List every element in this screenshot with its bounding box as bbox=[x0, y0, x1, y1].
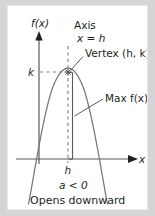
axis-of-symmetry-equation: x = h bbox=[76, 32, 105, 44]
parabola-diagram: f(x) x Axis x = h Vertex (h, k) Max f(x)… bbox=[8, 6, 147, 209]
max-label: Max f(x) bbox=[105, 92, 147, 104]
x-axis-label: x bbox=[138, 153, 146, 165]
vertex-leader-line bbox=[71, 57, 84, 71]
vertex-label: Vertex (h, k) bbox=[85, 47, 147, 59]
axis-of-symmetry-label: Axis bbox=[74, 19, 96, 31]
y-axis-label: f(x) bbox=[31, 17, 49, 29]
y-axis-arrow-icon bbox=[35, 31, 42, 41]
condition-label: a < 0 bbox=[59, 179, 88, 191]
figure-frame: f(x) x Axis x = h Vertex (h, k) Max f(x)… bbox=[0, 0, 155, 216]
max-leader-line bbox=[75, 99, 104, 116]
figure-panel: f(x) x Axis x = h Vertex (h, k) Max f(x)… bbox=[7, 5, 148, 210]
x-axis-arrow-icon bbox=[128, 155, 138, 163]
y-tick-label-k: k bbox=[28, 66, 35, 78]
max-value-bracket bbox=[69, 73, 73, 160]
x-tick-label-h: h bbox=[65, 164, 72, 176]
caption-label: Opens downward bbox=[30, 194, 125, 207]
